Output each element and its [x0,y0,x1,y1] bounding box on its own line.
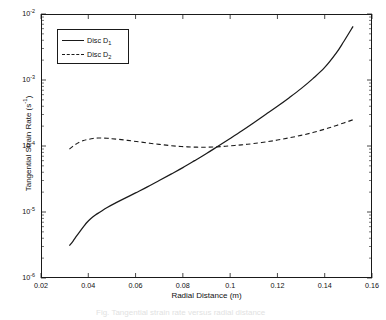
y-axis-title-prefix: Tangential Strain Rate (s [24,104,33,192]
y-axis-title-suffix: ) [24,96,33,99]
x-tick-label: 0.06 [129,282,143,289]
x-tick-label: 0.12 [270,282,284,289]
x-axis-title: Radial Distance (m) [41,291,372,300]
legend-label-disc-d1-text: Disc D [87,36,108,45]
series-curve-disc-d2 [69,120,353,149]
legend-label-disc-d1-sub: 1 [108,40,111,46]
y-axis-title-exponent: -1 [22,98,28,103]
y-axis-title: Tangential Strain Rate (s-1) [24,54,33,234]
legend-line-sample-dashed [62,50,84,58]
legend-label-disc-d2: Disc D2 [87,50,111,59]
legend-item-disc-d2: Disc D2 [58,47,128,61]
legend-label-disc-d2-sub: 2 [108,54,111,60]
legend-label-disc-d2-text: Disc D [87,50,108,59]
y-tick-label: 10-6 [0,274,35,281]
x-tick-label: 0.08 [176,282,190,289]
x-tick-label: 0.16 [365,282,379,289]
y-tick-label: 10-2 [0,10,35,17]
legend-label-disc-d1: Disc D1 [87,36,111,45]
x-tick-label: 0.1 [225,282,235,289]
caption-strip: Fig. Tangential strain rate versus radia… [0,309,386,320]
legend-line-sample-solid [62,36,84,44]
figure-caption: Fig. Tangential strain rate versus radia… [96,309,265,317]
figure-container: 10-210-310-410-510-6 0.020.040.060.080.1… [0,0,386,320]
x-tick-label: 0.02 [34,282,48,289]
x-tick-label: 0.14 [318,282,332,289]
x-tick-label: 0.04 [81,282,95,289]
legend-item-disc-d1: Disc D1 [58,33,128,47]
legend: Disc D1 Disc D2 [57,29,129,64]
